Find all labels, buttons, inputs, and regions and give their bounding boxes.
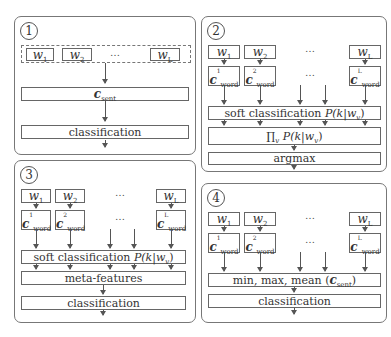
arrow-icon <box>224 253 225 271</box>
arrow-icon <box>103 285 104 294</box>
arrow-icon <box>365 59 366 64</box>
word-box-L: wL <box>349 45 381 59</box>
arrow-icon <box>365 253 366 271</box>
word-box-1: w1 <box>26 48 54 61</box>
word-box-2: w2 <box>244 212 276 226</box>
ellipsis: … <box>305 234 315 245</box>
word-vector-box-L: cLword <box>156 210 186 230</box>
soft-classification-box: soft classification P(k|wv) <box>21 250 186 264</box>
word-vector-box-1: c1word <box>208 66 240 86</box>
arrow-icon <box>300 120 301 125</box>
classification-box: classification <box>21 125 189 139</box>
word-box-1: w1 <box>208 212 240 226</box>
panel-4: 4 w1 w2 … wL c1word c2word … cLword min,… <box>201 183 387 323</box>
ellipsis: … <box>305 43 315 54</box>
meta-features-box: meta-features <box>21 271 186 285</box>
arrow-icon <box>70 203 71 208</box>
arrow-icon <box>325 85 326 104</box>
word-vector-box-1: c1word <box>208 233 240 253</box>
arrow-icon <box>300 252 301 271</box>
arrow-icon <box>110 264 111 269</box>
word-vector-box-2: c2word <box>55 210 85 230</box>
panel-1: 1 w1 w2 … wL csent classification <box>14 16 196 155</box>
pooling-box: min, max, mean (csent) <box>208 273 381 287</box>
word-vector-box-L: cLword <box>349 233 381 253</box>
word-box-2: w2 <box>55 189 85 203</box>
word-box-L: wL <box>349 212 381 226</box>
arrow-icon <box>365 120 366 125</box>
panel-number-4: 4 <box>207 189 225 207</box>
arrow-icon <box>171 203 172 208</box>
arrow-icon <box>365 86 366 104</box>
soft-classification-box: soft classification P(k|wv) <box>208 106 381 120</box>
ellipsis: … <box>115 187 125 198</box>
arrow-icon <box>70 230 71 248</box>
panel-number-3: 3 <box>20 166 38 184</box>
arrow-icon <box>171 264 172 269</box>
word-box-1: w1 <box>21 189 51 203</box>
word-vector-box-1: c1word <box>21 210 51 230</box>
arrow-icon <box>105 101 106 121</box>
arrow-icon <box>70 264 71 269</box>
arrow-icon <box>260 59 261 64</box>
product-box: ∏v P(k|wv) <box>208 127 381 145</box>
arrow-icon <box>365 226 366 231</box>
arrow-icon <box>36 203 37 208</box>
arrow-icon <box>260 253 261 271</box>
arrow-icon <box>260 86 261 104</box>
arrow-icon <box>224 120 225 125</box>
arrow-icon <box>294 165 295 169</box>
classification-box: classification <box>208 294 381 308</box>
arrow-icon <box>110 229 111 248</box>
word-box-2: w2 <box>244 45 276 59</box>
arrow-icon <box>325 252 326 271</box>
arrow-icon <box>103 310 104 315</box>
ellipsis: … <box>115 211 125 222</box>
arrow-icon <box>224 86 225 104</box>
ellipsis: … <box>110 47 120 58</box>
word-box-1: w1 <box>208 45 240 59</box>
word-box-L: wL <box>150 48 180 61</box>
arrow-icon <box>105 63 106 83</box>
classification-box: classification <box>21 296 186 310</box>
arrow-icon <box>260 226 261 231</box>
arrow-icon <box>134 264 135 269</box>
arrow-icon <box>260 120 261 125</box>
panel-2: 2 w1 w2 … wL c1word c2word … cLword soft… <box>201 16 387 172</box>
arrow-icon <box>224 59 225 64</box>
arrow-icon <box>294 145 295 150</box>
ellipsis: … <box>305 210 315 221</box>
arrow-icon <box>224 226 225 231</box>
panel-3: 3 w1 w2 … wL c1word c2word … cLword soft… <box>14 160 196 323</box>
ellipsis: … <box>305 67 315 78</box>
word-box-L: wL <box>156 189 186 203</box>
arrow-icon <box>134 229 135 248</box>
word-vector-box-2: c2word <box>244 233 276 253</box>
word-vector-box-L: cLword <box>349 66 381 86</box>
arrow-icon <box>36 230 37 248</box>
word-vector-box-2: c2word <box>244 66 276 86</box>
argmax-box: argmax <box>208 152 381 165</box>
sentence-vector-box: csent <box>21 87 189 101</box>
panel-number-2: 2 <box>207 22 225 40</box>
arrow-icon <box>325 120 326 125</box>
arrow-icon <box>105 140 106 147</box>
arrow-icon <box>294 308 295 314</box>
arrow-icon <box>300 85 301 104</box>
word-box-2: w2 <box>62 48 92 61</box>
arrow-icon <box>36 264 37 269</box>
arrow-icon <box>171 230 172 248</box>
panel-number-1: 1 <box>20 22 38 40</box>
arrow-icon <box>294 287 295 292</box>
